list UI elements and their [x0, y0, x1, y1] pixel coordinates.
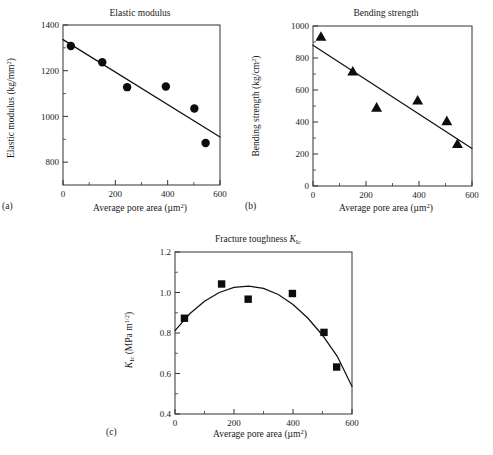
bending-strength-svg: Bending strength 02004006000200400600800… [243, 0, 493, 228]
y-tick-label: 1200 [41, 66, 60, 76]
panel-c-letter: (c) [106, 427, 117, 438]
data-point-square [289, 290, 296, 297]
x-tick-label: 200 [227, 418, 241, 428]
panel-c-title: Fracture toughness KIc [215, 234, 301, 245]
x-tick-label: 400 [286, 418, 300, 428]
panel-b-fit-line [313, 45, 472, 148]
y-tick-label: 1.0 [160, 288, 172, 298]
x-tick-label: 600 [213, 189, 227, 199]
data-point-square [333, 363, 340, 370]
chart-panel-fracture-toughness: Fracture toughness KIc 02004006000.40.60… [100, 228, 400, 455]
regression-line [313, 45, 472, 148]
panel-b-xlabel-text: Average pore area (µm [339, 203, 427, 214]
data-point-square [218, 280, 225, 287]
y-tick-label: 800 [46, 157, 60, 167]
panel-c-axes: 02004006000.40.60.81.01.2 [160, 247, 360, 428]
x-tick-label: 600 [465, 190, 479, 200]
y-tick-label: 0 [305, 181, 310, 191]
y-tick-label: 800 [296, 53, 310, 63]
panel-a-title: Elastic modulus [110, 8, 171, 18]
x-tick-label: 200 [359, 190, 373, 200]
data-point-triangle [412, 95, 423, 105]
panel-c-fit-curve [175, 286, 352, 386]
panel-b-ylabel: Bending strength (kg/cm2) [250, 56, 262, 157]
panel-c-data-points [181, 280, 341, 370]
y-tick-label: 200 [296, 149, 310, 159]
x-tick-label: 0 [173, 418, 178, 428]
x-tick-label: 400 [161, 189, 175, 199]
panel-c-ylabel: KIc (MPa m1/2) [123, 312, 135, 369]
x-tick-label: 0 [311, 190, 316, 200]
chart-panel-bending-strength: Bending strength 02004006000200400600800… [243, 0, 493, 228]
x-tick-label: 0 [61, 189, 66, 199]
y-tick-label: 400 [296, 117, 310, 127]
data-point-circle [201, 139, 209, 147]
panel-b-ylabel-text: Bending strength (kg/cm [251, 61, 262, 156]
panel-c-title-text: Fracture toughness [215, 234, 289, 244]
y-tick-label: 1000 [41, 112, 60, 122]
panel-b-title: Bending strength [353, 8, 418, 18]
panel-b-axes: 020040060002004006008001000 [291, 21, 479, 200]
y-tick-label: 1400 [41, 20, 60, 30]
panel-a-xlabel: Average pore area (µm2) [93, 202, 187, 214]
x-tick-label: 200 [109, 189, 123, 199]
data-point-triangle [315, 31, 326, 41]
panel-c-xlabel: Average pore area (µm2) [213, 428, 307, 440]
y-tick-label: 0.8 [160, 328, 172, 338]
regression-curve [175, 286, 352, 386]
y-tick-label: 1.2 [160, 247, 171, 257]
elastic-modulus-svg: Elastic modulus 020040060080010001200140… [0, 0, 240, 228]
panel-a-ylabel: Elastic modulus (kg/mm2) [5, 58, 17, 158]
data-point-circle [123, 83, 131, 91]
data-point-triangle [347, 66, 358, 76]
panel-b-data-points [315, 31, 462, 148]
plot-frame [313, 26, 472, 186]
y-tick-label: 600 [296, 85, 310, 95]
panel-a-fit-line [63, 40, 220, 137]
data-point-circle [162, 82, 170, 90]
data-point-square [320, 329, 327, 336]
data-point-circle [98, 58, 106, 66]
panel-b-xlabel: Average pore area (µm2) [339, 202, 433, 214]
data-point-triangle [371, 102, 382, 112]
fracture-toughness-svg: Fracture toughness KIc 02004006000.40.60… [100, 228, 400, 455]
panel-b-letter: (b) [245, 201, 256, 212]
data-point-square [181, 315, 188, 322]
data-point-triangle [452, 138, 463, 148]
panel-a-data-points [67, 42, 210, 147]
regression-line [63, 40, 220, 137]
y-tick-label: 1000 [291, 21, 310, 31]
panel-c-xlabel-text: Average pore area (µm [213, 429, 301, 440]
y-tick-label: 0.4 [160, 409, 172, 419]
data-point-circle [67, 42, 75, 50]
data-point-square [244, 295, 251, 302]
panel-a-xlabel-text: Average pore area (µm [93, 203, 181, 214]
panel-a-ylabel-text: Elastic modulus (kg/mm [6, 64, 17, 158]
x-tick-label: 600 [345, 418, 359, 428]
data-point-circle [190, 104, 198, 112]
data-point-triangle [441, 116, 452, 126]
x-tick-label: 400 [412, 190, 426, 200]
chart-panel-elastic-modulus: Elastic modulus 020040060080010001200140… [0, 0, 240, 228]
figure-container: Elastic modulus 020040060080010001200140… [0, 0, 493, 455]
y-tick-label: 0.6 [160, 369, 172, 379]
panel-a-letter: (a) [2, 201, 13, 212]
